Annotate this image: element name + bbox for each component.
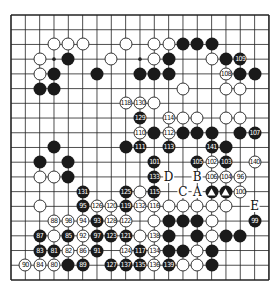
- black-stone: [205, 244, 218, 257]
- black-stone: [148, 67, 161, 80]
- black-stone: [162, 215, 175, 228]
- black-stone: 103: [219, 156, 232, 169]
- move-number: 135: [135, 262, 145, 269]
- move-number: 127: [106, 262, 116, 269]
- white-stone: 80: [47, 259, 60, 272]
- move-number: 93: [94, 218, 101, 225]
- move-number: 87: [36, 232, 43, 239]
- black-stone: [162, 229, 175, 242]
- white-stone: [191, 200, 204, 213]
- black-stone: [148, 126, 161, 139]
- black-stone: 125: [119, 185, 132, 198]
- black-stone: [234, 229, 247, 242]
- white-stone: 84: [33, 259, 46, 272]
- white-stone: [176, 82, 189, 95]
- move-number: 125: [121, 188, 131, 195]
- black-stone: [176, 126, 189, 139]
- white-stone: 114: [162, 112, 175, 125]
- move-number: 134: [149, 247, 159, 254]
- black-stone: 97: [90, 229, 103, 242]
- white-stone: 128: [105, 215, 118, 228]
- white-stone: 122: [119, 215, 132, 228]
- black-stone: [219, 185, 232, 198]
- move-number: 109: [235, 56, 245, 63]
- white-stone: [234, 112, 247, 125]
- black-stone: [176, 38, 189, 51]
- move-number: 95: [79, 203, 86, 210]
- move-number: 100: [235, 188, 245, 195]
- black-stone: 81: [47, 244, 60, 257]
- white-stone: 86: [76, 244, 89, 257]
- black-stone: 95: [76, 200, 89, 213]
- move-number: 117: [135, 247, 145, 254]
- black-stone: 83: [33, 244, 46, 257]
- white-stone: 136: [148, 259, 161, 272]
- black-stone: [47, 141, 60, 154]
- triangle-marker-icon: [222, 188, 230, 195]
- black-stone: 85: [62, 229, 75, 242]
- move-number: 130: [135, 100, 145, 107]
- black-stone: [119, 141, 132, 154]
- white-stone: 126: [90, 200, 103, 213]
- point-label-d: D: [163, 171, 175, 183]
- black-stone: 121: [119, 229, 132, 242]
- move-number: 115: [149, 188, 159, 195]
- black-stone: [47, 67, 60, 80]
- move-number: 136: [149, 262, 159, 269]
- black-stone: [205, 185, 218, 198]
- black-stone: [162, 244, 175, 257]
- move-number: 103: [221, 159, 231, 166]
- black-stone: 127: [105, 259, 118, 272]
- black-stone: [205, 126, 218, 139]
- black-stone: 135: [133, 259, 146, 272]
- white-stone: 138: [148, 229, 161, 242]
- black-stone: [176, 244, 189, 257]
- black-stone: [219, 141, 232, 154]
- white-stone: 118: [119, 97, 132, 110]
- white-stone: 110: [133, 126, 146, 139]
- black-stone: [248, 67, 261, 80]
- black-stone: 115: [148, 185, 161, 198]
- black-stone: 109: [234, 53, 247, 66]
- star-point: [138, 57, 142, 61]
- move-number: 102: [207, 159, 217, 166]
- move-number: 112: [164, 129, 174, 136]
- black-stone: 137: [119, 259, 132, 272]
- white-stone: [62, 38, 75, 51]
- white-stone: [176, 259, 189, 272]
- white-stone: 98: [62, 215, 75, 228]
- black-stone: [133, 67, 146, 80]
- move-number: 141: [207, 144, 217, 151]
- black-stone: [234, 126, 247, 139]
- point-label-e: E: [249, 200, 260, 212]
- white-stone: [133, 229, 146, 242]
- move-number: 86: [79, 247, 86, 254]
- white-stone: [162, 200, 175, 213]
- black-stone: [62, 53, 75, 66]
- black-stone: [205, 38, 218, 51]
- white-stone: [33, 53, 46, 66]
- white-stone: [47, 38, 60, 51]
- black-stone: [33, 156, 46, 169]
- star-point: [52, 57, 56, 61]
- black-stone: [176, 215, 189, 228]
- move-number: 84: [36, 262, 43, 269]
- white-stone: [219, 200, 232, 213]
- white-stone: 92: [76, 229, 89, 242]
- white-stone: [33, 170, 46, 183]
- move-number: 108: [221, 70, 231, 77]
- move-number: 88: [51, 218, 58, 225]
- white-stone: 108: [219, 67, 232, 80]
- move-number: 118: [121, 100, 131, 107]
- black-stone: [219, 229, 232, 242]
- move-number: 80: [51, 262, 58, 269]
- white-stone: [205, 215, 218, 228]
- move-number: 91: [94, 247, 101, 254]
- move-number: 121: [121, 232, 131, 239]
- white-stone: 94: [76, 215, 89, 228]
- white-stone: 90: [19, 259, 32, 272]
- white-stone: [205, 229, 218, 242]
- black-stone: [62, 170, 75, 183]
- black-stone: 139: [162, 259, 175, 272]
- white-stone: 88: [47, 215, 60, 228]
